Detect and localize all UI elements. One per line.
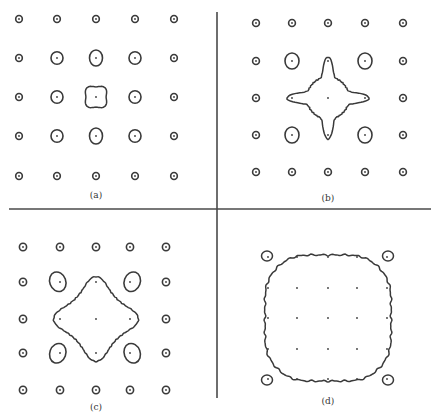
- lattice-point: [134, 57, 136, 59]
- lattice-point: [356, 287, 358, 289]
- panel-label-b: (b): [322, 193, 335, 203]
- lattice-point: [18, 96, 20, 98]
- lattice-point: [386, 348, 388, 350]
- lattice-point: [95, 318, 97, 320]
- lattice-point: [386, 287, 388, 289]
- lattice-point: [18, 57, 20, 59]
- lattice-point: [134, 175, 136, 177]
- lattice-point: [402, 22, 404, 24]
- lattice-point: [165, 281, 167, 283]
- lattice-point: [95, 175, 97, 177]
- lattice-point: [356, 256, 358, 258]
- lattice-point: [173, 175, 175, 177]
- lattice-point: [129, 352, 131, 354]
- lattice-point: [402, 134, 404, 136]
- lattice-point: [356, 348, 358, 350]
- lattice-point: [255, 134, 257, 136]
- lattice-point: [165, 352, 167, 354]
- lattice-point: [267, 287, 269, 289]
- lattice-point: [364, 22, 366, 24]
- lattice-point: [173, 57, 175, 59]
- lattice-point: [386, 317, 388, 319]
- lattice-point: [327, 348, 329, 350]
- contour-corner-lobe: [383, 251, 394, 261]
- lattice-point: [267, 378, 269, 380]
- lattice-point: [56, 96, 58, 98]
- lattice-point: [22, 389, 24, 391]
- lattice-point: [173, 96, 175, 98]
- lattice-point: [22, 318, 24, 320]
- lattice-point: [327, 97, 329, 99]
- panel-label-c: (c): [90, 402, 102, 412]
- lattice-point: [129, 318, 131, 320]
- lattice-point: [267, 317, 269, 319]
- lattice-point: [59, 246, 61, 248]
- contour-lobe: [121, 270, 143, 294]
- lattice-point: [291, 134, 293, 136]
- lattice-point: [59, 281, 61, 283]
- lattice-point: [59, 389, 61, 391]
- panel-label-a: (a): [90, 190, 102, 200]
- lattice-point: [165, 246, 167, 248]
- lattice-point: [95, 281, 97, 283]
- lattice-point: [22, 352, 24, 354]
- lattice-point: [173, 18, 175, 20]
- lattice-point: [327, 317, 329, 319]
- lattice-point: [386, 256, 388, 258]
- lattice-point: [165, 389, 167, 391]
- panel-label-d: (d): [322, 396, 335, 406]
- lattice-point: [134, 18, 136, 20]
- lattice-point: [255, 22, 257, 24]
- lattice-point: [327, 60, 329, 62]
- lattice-point: [95, 57, 97, 59]
- lattice-point: [267, 256, 269, 258]
- lattice-point: [18, 135, 20, 137]
- contour-lobe: [47, 270, 69, 294]
- lattice-point: [56, 18, 58, 20]
- lattice-point: [291, 97, 293, 99]
- lattice-point: [95, 96, 97, 98]
- lattice-point: [134, 135, 136, 137]
- lattice-point: [129, 389, 131, 391]
- lattice-point: [364, 60, 366, 62]
- lattice-point: [296, 348, 298, 350]
- lattice-point: [402, 171, 404, 173]
- lattice-point: [95, 352, 97, 354]
- lattice-point: [327, 287, 329, 289]
- lattice-point: [255, 97, 257, 99]
- contour-lobe: [47, 341, 69, 365]
- contour-corner-lobe: [262, 251, 273, 261]
- lattice-point: [364, 171, 366, 173]
- lattice-point: [95, 389, 97, 391]
- lattice-point: [327, 378, 329, 380]
- lattice-point: [18, 18, 20, 20]
- lattice-point: [291, 171, 293, 173]
- lattice-point: [56, 57, 58, 59]
- lattice-point: [95, 135, 97, 137]
- lattice-point: [327, 171, 329, 173]
- lattice-point: [22, 246, 24, 248]
- lattice-point: [386, 378, 388, 380]
- lattice-point: [56, 175, 58, 177]
- lattice-point: [255, 60, 257, 62]
- lattice-point: [22, 281, 24, 283]
- lattice-point: [364, 134, 366, 136]
- lattice-point: [173, 135, 175, 137]
- lattice-point: [95, 246, 97, 248]
- contour-lobe: [121, 341, 143, 365]
- lattice-point: [296, 287, 298, 289]
- lattice-point: [95, 18, 97, 20]
- lattice-point: [255, 171, 257, 173]
- lattice-point: [129, 281, 131, 283]
- lattice-point: [402, 60, 404, 62]
- lattice-point: [134, 96, 136, 98]
- lattice-point: [291, 22, 293, 24]
- lattice-point: [327, 22, 329, 24]
- contour-corner-lobe: [262, 375, 273, 385]
- lattice-point: [402, 97, 404, 99]
- lattice-point: [165, 318, 167, 320]
- lattice-point: [129, 246, 131, 248]
- contour-corner-lobe: [383, 375, 394, 385]
- lattice-point: [59, 352, 61, 354]
- lattice-point: [56, 135, 58, 137]
